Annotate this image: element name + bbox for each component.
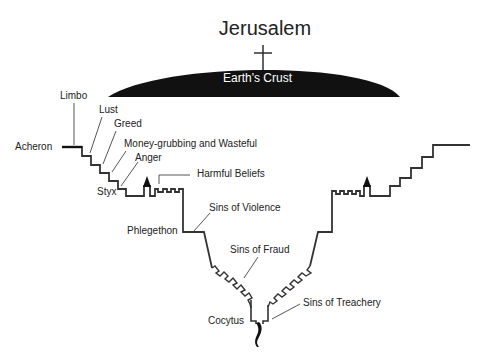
cocytus-right-wall (263, 305, 268, 324)
label-sins-of-fraud: Sins of Fraud (230, 245, 289, 255)
label-styx: Styx (97, 187, 116, 197)
label-sins-of-violence: Sins of Violence (209, 203, 281, 213)
pit-left-wall (62, 147, 212, 268)
label-harmful-beliefs: Harmful Beliefs (197, 169, 265, 179)
lucifer-figure-icon (255, 322, 262, 347)
label-anger: Anger (135, 153, 162, 163)
label-acheron: Acheron (15, 142, 52, 152)
label-lust: Lust (99, 105, 118, 115)
castle-tower-icon-right (363, 176, 371, 187)
cocytus-left-wall (251, 300, 256, 324)
pit-right-wall (310, 145, 470, 266)
malebolge-left (212, 266, 252, 308)
earths-crust-label: Earth's Crust (223, 72, 292, 84)
label-greed: Greed (114, 119, 142, 129)
cross-icon (254, 45, 272, 70)
castle-tower-icon-left (143, 176, 151, 187)
label-phlegethon: Phlegethon (127, 226, 178, 236)
label-sins-of-treachery: Sins of Treachery (303, 298, 381, 308)
label-limbo: Limbo (60, 91, 87, 101)
label-money-grubbing: Money-grubbing and Wasteful (124, 139, 257, 149)
label-cocytus: Cocytus (208, 316, 244, 326)
title-jerusalem: Jerusalem (0, 18, 495, 38)
